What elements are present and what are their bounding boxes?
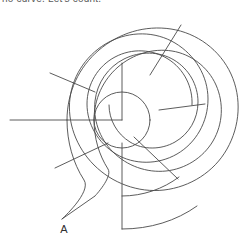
inner-spiral-curve [94,50,221,171]
radial-dividers-group [10,25,205,179]
spiral-outer-curve-group [67,28,238,191]
label-a-group: A [60,223,68,235]
bottom-vertical-line-group [122,143,197,229]
spiral-svg: A [0,0,243,238]
radial-divider-315 [134,137,178,179]
label-a: A [60,223,68,235]
radial-divider-225 [55,143,108,168]
spiral-inner-curve-group [94,50,221,171]
figure-page: no curve. Let's count. [0,0,243,238]
tail-outer-edge [62,120,85,219]
radial-divider-060 [150,25,181,75]
spiral-figure: A [0,0,243,238]
tail-end-cap [62,196,95,219]
bottom-outer-arc-cap [122,206,197,229]
outer-spiral-curve [67,28,238,191]
spiral-tail-group [62,120,109,219]
